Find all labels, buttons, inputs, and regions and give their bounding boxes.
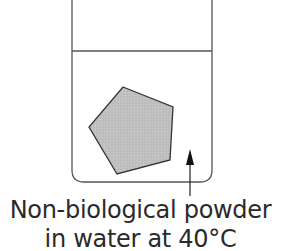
label-line-1: Non-biological powder xyxy=(0,196,281,224)
arrow-icon xyxy=(186,149,194,196)
detergent-tablet-pentagon xyxy=(89,87,173,174)
label-line-2: in water at 40°C xyxy=(0,225,281,251)
